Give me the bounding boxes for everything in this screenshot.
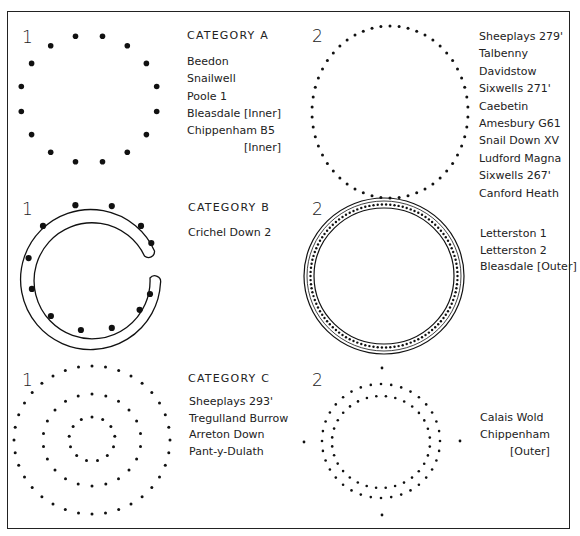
panel-c2-double-ring: [303, 367, 462, 517]
category-c-title: CATEGORY C: [188, 372, 270, 385]
site-label: [Inner]: [187, 139, 281, 156]
panel-number-b1: 1: [22, 199, 33, 219]
penannular-trench-outline: [21, 210, 161, 350]
site-label: Snailwell: [187, 70, 281, 87]
site-label: [Outer]: [480, 444, 550, 461]
category-a-title: CATEGORY A: [187, 29, 269, 42]
panel-number-b2: 2: [312, 199, 323, 219]
panel-number-a2: 2: [312, 26, 323, 46]
category-b-title: CATEGORY B: [188, 201, 270, 214]
site-label: Talbenny: [479, 45, 563, 62]
site-label: Ludford Magna: [479, 150, 563, 167]
site-label: Sheeplays 293': [189, 394, 288, 411]
site-label: Arreton Down: [189, 427, 288, 444]
panel-c1-concentric-rings: [13, 365, 172, 516]
panel-a1-site-list: Beedon Snailwell Poole 1 Bleasdale [Inne…: [187, 53, 281, 157]
site-label: Beedon: [187, 53, 281, 70]
site-label: Sheeplays 279': [479, 28, 563, 45]
site-label: Crichel Down 2: [188, 224, 271, 241]
panel-c1-site-list: Sheeplays 293' Tregulland Burrow Arreton…: [189, 394, 288, 460]
site-label: Chippenham: [480, 427, 550, 444]
site-label: Letterston 2: [480, 243, 577, 260]
panel-c2-site-list: Calais Wold Chippenham [Outer]: [480, 410, 550, 460]
panel-a2-dot-ring: [311, 25, 470, 200]
site-label: Amesbury G61: [479, 115, 563, 132]
site-label: Chippenham B5: [187, 122, 281, 139]
site-label: Calais Wold: [480, 410, 550, 427]
site-label: Bleasdale [Inner]: [187, 105, 281, 122]
site-label: Bleasdale [Outer]: [480, 259, 577, 276]
panel-a1-dot-ring: [19, 33, 160, 164]
panel-a2-site-list: Sheeplays 279' Talbenny Davidstow Sixwel…: [479, 28, 563, 202]
site-label: Sixwells 271': [479, 80, 563, 97]
site-label: Snail Down XV: [479, 132, 563, 149]
panel-number-c2: 2: [312, 370, 323, 390]
site-label: Canford Heath: [479, 185, 563, 202]
panel-b2-site-list: Letterston 1 Letterston 2 Bleasdale [Out…: [480, 226, 577, 276]
site-label: Caebetin: [479, 98, 563, 115]
panel-number-a1: 1: [22, 27, 33, 47]
site-label: Davidstow: [479, 63, 563, 80]
site-label: Pant-y-Dulath: [189, 444, 288, 461]
panel-number-c1: 1: [22, 370, 33, 390]
panel-b1-site-list: Crichel Down 2: [188, 224, 271, 241]
panel-b1-penannular-ring: [21, 202, 161, 349]
site-label: Poole 1: [187, 88, 281, 105]
site-label: Sixwells 267': [479, 167, 563, 184]
site-label: Letterston 1: [480, 226, 577, 243]
panel-b2-ditched-ring: [304, 198, 464, 354]
site-label: Tregulland Burrow: [189, 411, 288, 428]
